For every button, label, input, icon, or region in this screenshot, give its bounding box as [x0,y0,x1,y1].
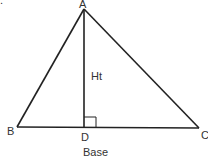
vertex-label-a: A [79,0,87,10]
side-ac [84,9,199,128]
triangle-diagram: . A B C D Ht Base [0,0,208,161]
height-label: Ht [91,70,102,82]
side-ab [17,9,84,127]
base-label: Base [83,146,108,158]
vertex-label-d: D [81,131,89,143]
right-angle-marker [84,117,96,127]
vertex-label-b: B [7,125,14,137]
vertex-label-c: C [201,129,208,141]
corner-fragment: . [0,0,3,6]
side-bc-base [17,127,199,128]
